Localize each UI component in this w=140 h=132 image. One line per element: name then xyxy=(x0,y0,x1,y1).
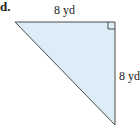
triangle-shape xyxy=(15,22,115,125)
top-side-length-label: 8 yd xyxy=(54,4,75,16)
right-side-length-label: 8 yd xyxy=(119,70,140,82)
right-triangle-figure xyxy=(0,0,140,132)
